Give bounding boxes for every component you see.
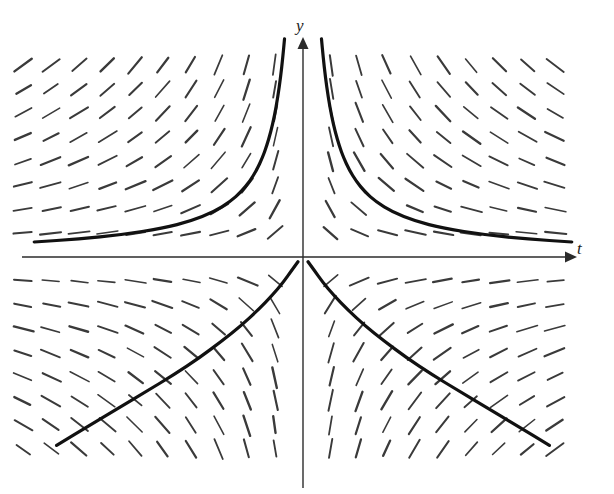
slope-mark xyxy=(490,132,507,143)
slope-mark xyxy=(68,231,89,234)
slope-mark xyxy=(186,81,197,98)
slope-mark xyxy=(97,206,115,210)
slope-mark xyxy=(518,303,535,307)
slope-mark xyxy=(214,416,224,434)
slope-mark xyxy=(329,321,335,337)
slope-mark xyxy=(546,420,562,431)
slope-mark xyxy=(273,81,276,97)
slope-mark xyxy=(465,420,477,432)
slope-mark xyxy=(463,372,478,383)
slope-mark xyxy=(436,106,450,121)
slope-mark xyxy=(214,129,225,145)
slope-mark xyxy=(212,178,228,192)
slope-mark xyxy=(98,395,115,407)
slope-mark xyxy=(13,232,31,234)
slope-mark xyxy=(462,280,479,283)
slope-mark xyxy=(544,182,564,188)
slope-mark xyxy=(520,84,535,95)
t-axis-arrowhead xyxy=(565,252,577,263)
slope-mark xyxy=(272,367,277,388)
slope-mark xyxy=(491,372,508,382)
slope-mark xyxy=(268,226,283,239)
slope-mark xyxy=(490,326,507,332)
slope-mark xyxy=(328,343,333,362)
slope-mark xyxy=(40,182,60,188)
slope-mark xyxy=(517,325,538,331)
slope-mark xyxy=(329,439,332,458)
slope-mark xyxy=(518,372,535,380)
slope-mark xyxy=(379,323,394,336)
axis-group xyxy=(22,37,577,488)
slope-mark xyxy=(519,132,537,142)
slope-mark xyxy=(129,372,143,383)
slope-mark xyxy=(356,369,363,385)
slope-mark xyxy=(69,303,89,307)
slope-mark xyxy=(213,392,223,408)
slope-mark xyxy=(351,202,366,215)
slope-mark xyxy=(242,344,253,362)
slope-mark xyxy=(381,369,391,384)
t-axis-label: t xyxy=(577,240,582,257)
slope-mark xyxy=(492,418,507,432)
slope-mark xyxy=(128,57,142,73)
slope-mark xyxy=(239,298,253,311)
slope-mark xyxy=(210,278,227,283)
slope-mark xyxy=(518,208,536,212)
slope-mark xyxy=(545,232,566,234)
slope-mark xyxy=(490,207,507,211)
slope-mark xyxy=(518,182,537,189)
slope-mark xyxy=(271,319,278,338)
slope-mark xyxy=(43,108,60,118)
slope-mark xyxy=(127,348,143,357)
slope-mark xyxy=(489,182,509,189)
slope-mark xyxy=(244,392,251,409)
slope-mark xyxy=(15,133,31,140)
slope-mark xyxy=(383,105,393,123)
slope-mark xyxy=(213,347,224,360)
slope-mark xyxy=(243,80,249,100)
slope-mark xyxy=(519,158,534,165)
slope-mark xyxy=(548,373,563,380)
solution-curve-lower-right xyxy=(308,262,549,446)
slope-mark xyxy=(238,229,256,236)
slope-mark xyxy=(330,79,333,99)
slope-mark xyxy=(14,280,32,281)
slope-mark xyxy=(154,279,171,282)
slope-mark xyxy=(330,55,333,76)
slope-mark xyxy=(406,279,426,283)
slope-mark xyxy=(356,439,361,457)
slope-mark xyxy=(407,154,423,168)
slope-mark xyxy=(214,55,222,74)
slope-mark xyxy=(125,302,145,307)
slope-mark xyxy=(211,152,225,168)
slope-mark xyxy=(70,372,89,382)
slope-mark xyxy=(328,152,333,171)
slope-mark xyxy=(182,180,199,191)
slope-mark xyxy=(434,232,453,235)
slope-mark xyxy=(436,182,451,189)
slope-mark xyxy=(128,132,142,142)
slope-mark xyxy=(462,303,481,309)
slope-mark xyxy=(405,230,425,234)
slope-mark xyxy=(546,304,564,307)
slope-mark xyxy=(350,278,369,286)
slope-mark xyxy=(436,417,448,432)
slope-mark xyxy=(210,299,226,309)
slope-mark xyxy=(463,350,478,358)
slope-mark xyxy=(43,303,60,306)
slope-mark xyxy=(71,350,88,357)
slope-mark xyxy=(410,106,421,120)
slope-mark xyxy=(409,130,420,142)
slope-mark xyxy=(466,82,478,94)
slope-mark xyxy=(97,231,118,234)
slope-mark xyxy=(433,279,452,282)
slope-mark xyxy=(353,343,363,361)
slope-mark xyxy=(14,182,32,186)
slope-mark xyxy=(491,107,508,119)
slope-mark xyxy=(156,131,170,142)
slope-mark xyxy=(518,108,535,119)
slope-mark xyxy=(154,347,170,358)
y-axis-label: y xyxy=(296,17,304,34)
slope-mark xyxy=(493,58,506,71)
slope-mark xyxy=(378,279,397,284)
